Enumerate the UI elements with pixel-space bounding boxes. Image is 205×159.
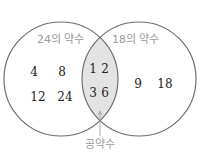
- right-value: 18: [157, 77, 172, 91]
- left-value: 24: [57, 90, 73, 104]
- left-set-label: 24의 약수: [37, 32, 85, 46]
- common-value: 3: [89, 86, 97, 100]
- left-value: 8: [58, 65, 66, 79]
- right-set-label: 18의 약수: [112, 32, 160, 46]
- intersection-label: 공약수: [85, 137, 115, 151]
- right-value: 9: [134, 77, 142, 91]
- left-value: 12: [30, 90, 45, 104]
- venn-diagram: 24의 약수 18의 약수 4 8 12 24 1 2 3 6 9 18 공약수: [0, 0, 205, 159]
- left-value: 4: [30, 65, 38, 79]
- common-value: 2: [101, 62, 109, 76]
- common-value: 1: [89, 62, 97, 76]
- common-value: 6: [101, 86, 109, 100]
